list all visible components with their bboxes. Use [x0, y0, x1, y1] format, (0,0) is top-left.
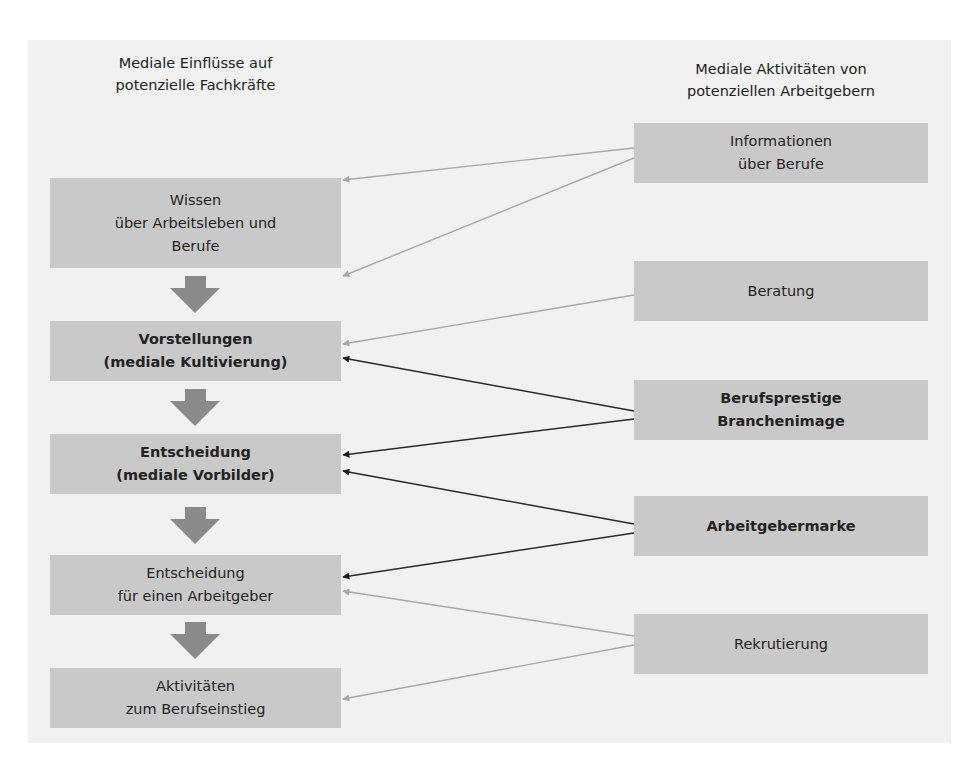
flow-arrows [170, 276, 220, 659]
down-arrow-icon [170, 276, 220, 313]
connector-arrows [0, 0, 974, 774]
arrow-berufsprestige-to-vorstellungen [343, 358, 634, 411]
down-arrow-icon [170, 389, 220, 426]
arrow-rekrutierung-to-aktivitaeten [343, 645, 634, 699]
arrow-arbeitgebermarke-to-entscheidung-arbeitgeber [343, 533, 634, 577]
arrow-berufsprestige-to-entscheidung-vorbilder [343, 419, 634, 455]
down-arrow-icon [170, 622, 220, 659]
down-arrow-icon [170, 507, 220, 544]
arrow-rekrutierung-to-entscheidung-arbeitgeber [343, 591, 634, 636]
arrow-beratung-to-vorstellungen [343, 295, 634, 344]
arrow-arbeitgebermarke-to-entscheidung-vorbilder [343, 471, 634, 524]
